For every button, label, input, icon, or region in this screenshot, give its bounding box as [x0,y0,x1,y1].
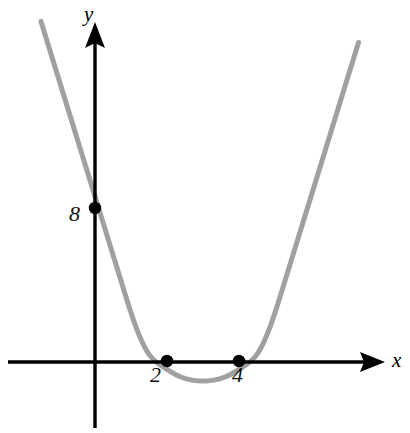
graph-canvas [0,0,410,433]
point-root-left [161,355,173,367]
root-left-label: 2 [150,364,161,386]
point-y-intercept [89,202,101,214]
x-axis-label: x [392,350,401,371]
y-intercept-label: 8 [69,203,80,225]
y-axis-label: y [84,4,93,25]
parabola-curve [41,21,359,381]
parabola-figure: y x 8 2 4 [0,0,410,433]
root-right-label: 4 [232,364,243,386]
